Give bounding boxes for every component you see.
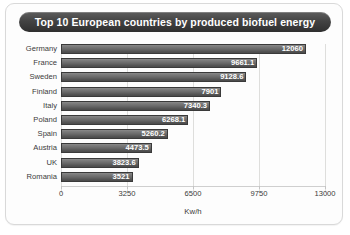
- bar-value-label: 7901: [202, 88, 219, 96]
- bar-value-label: 9661.1: [231, 59, 254, 67]
- x-axis-tick-label: 9750: [251, 190, 268, 198]
- category-label: Sweden: [30, 74, 57, 82]
- category-label: Finland: [32, 88, 57, 96]
- category-label: France: [33, 59, 57, 67]
- bar[interactable]: 7901: [61, 87, 221, 97]
- bar-value-label: 7340.3: [184, 102, 207, 110]
- bar[interactable]: 6268.1: [61, 115, 188, 125]
- bars-container: Germany12060France9661.1Sweden9128.6Finl…: [61, 44, 325, 186]
- x-axis-title: Kw/h: [61, 208, 325, 216]
- chart-row: Germany12060: [61, 44, 325, 54]
- x-axis-tick-label: 0: [59, 190, 63, 198]
- x-axis-tick-label: 6500: [185, 190, 202, 198]
- chart-row: UK3823.6: [61, 158, 325, 168]
- category-label: Germany: [26, 45, 57, 53]
- bar-value-label: 6268.1: [162, 116, 185, 124]
- bar-value-label: 3823.6: [112, 159, 135, 167]
- bar-value-label: 4473.5: [126, 145, 149, 153]
- chart-row: Austria4473.5: [61, 143, 325, 153]
- bar-value-label: 5260.2: [142, 130, 165, 138]
- chart-row: Italy7340.3: [61, 101, 325, 111]
- page-title: Top 10 European countries by produced bi…: [19, 12, 331, 32]
- bar[interactable]: 3823.6: [61, 158, 139, 168]
- chart-title-banner: Top 10 European countries by produced bi…: [19, 12, 331, 32]
- chart-row: France9661.1: [61, 58, 325, 68]
- x-axis-tick-label: 3250: [119, 190, 136, 198]
- category-label: Italy: [43, 102, 57, 110]
- bar[interactable]: 9128.6: [61, 72, 246, 82]
- bar-value-label: 3521: [113, 173, 130, 181]
- bar[interactable]: 3521: [61, 172, 133, 182]
- category-label: UK: [46, 159, 57, 167]
- category-label: Poland: [33, 116, 57, 124]
- chart-row: Poland6268.1: [61, 115, 325, 125]
- bar[interactable]: 4473.5: [61, 143, 152, 153]
- bar[interactable]: 5260.2: [61, 129, 168, 139]
- chart-row: Sweden9128.6: [61, 72, 325, 82]
- x-axis-tick-label: 13000: [314, 190, 335, 198]
- category-label: Austria: [33, 145, 57, 153]
- chart-row: Romania3521: [61, 172, 325, 182]
- chart-card: Top 10 European countries by produced bi…: [5, 3, 343, 225]
- chart-row: Spain5260.2: [61, 129, 325, 139]
- bar[interactable]: 12060: [61, 44, 306, 54]
- gridline: [325, 44, 326, 193]
- category-label: Spain: [38, 130, 57, 138]
- bar[interactable]: 7340.3: [61, 101, 210, 111]
- category-label: Romania: [27, 173, 57, 181]
- bar-value-label: 9128.6: [220, 74, 243, 82]
- chart-plot-area: Germany12060France9661.1Sweden9128.6Finl…: [15, 40, 335, 226]
- bar[interactable]: 9661.1: [61, 58, 257, 68]
- bar-value-label: 12060: [282, 45, 303, 53]
- chart-row: Finland7901: [61, 87, 325, 97]
